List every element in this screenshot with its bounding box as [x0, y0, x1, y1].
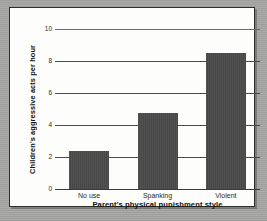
y-axis-title: Children's aggressive acts per hour [26, 29, 38, 189]
y-tick-label-0: 0 [48, 186, 52, 193]
chart-panel: Children's aggressive acts per hour 0246… [9, 7, 255, 207]
y-tick-label-6: 6 [48, 90, 52, 97]
y-tick-label-2: 2 [48, 154, 52, 161]
x-tick-label-spanking: Spanking [143, 192, 172, 199]
x-axis-line [55, 189, 260, 190]
bar-no-use [69, 151, 109, 189]
y-tick-label-4: 4 [48, 122, 52, 129]
bar-violent [206, 53, 246, 189]
y-tick-label-10: 10 [45, 26, 52, 33]
x-tick-label-violent: Violent [215, 192, 236, 199]
x-axis-title: Parent's physical punishment style [55, 201, 260, 209]
gridline-10 [55, 29, 260, 30]
chart-image: Children's aggressive acts per hour 0246… [0, 0, 267, 221]
x-tick-label-no-use: No use [78, 192, 100, 199]
y-axis-title-text: Children's aggressive acts per hour [28, 45, 37, 174]
y-tick-label-8: 8 [48, 58, 52, 65]
bar-spanking [138, 113, 178, 189]
plot-area: 0246810No useSpankingViolent [55, 29, 260, 189]
